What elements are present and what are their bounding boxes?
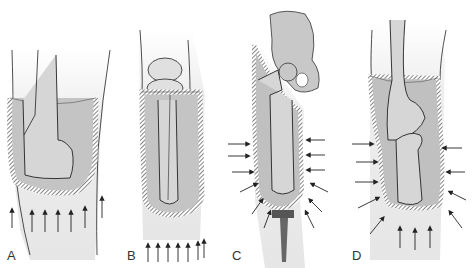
panel-label-b: B <box>127 248 136 263</box>
panel-d <box>352 20 466 260</box>
panel-c <box>228 11 328 268</box>
panel-b <box>138 30 205 262</box>
arrows-up-b <box>148 241 204 262</box>
panel-label-c: C <box>232 248 241 263</box>
panel-label-d: D <box>352 248 361 263</box>
figure-canvas <box>0 0 475 268</box>
panel-a <box>10 50 110 260</box>
distal-pad <box>272 210 294 218</box>
panel-label-a: A <box>7 248 16 263</box>
